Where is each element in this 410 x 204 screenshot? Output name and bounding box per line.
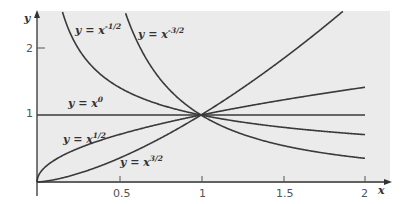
y-tick-label: 2 <box>26 42 33 55</box>
y-axis-label: y <box>23 12 32 25</box>
x-tick-label: 1 <box>199 187 206 200</box>
power-functions-chart: 0.5 1 1.5 2 1 2 x y y = x-1/2 y = x-3/2 … <box>0 0 410 204</box>
x-tick-label: 0.5 <box>113 187 131 200</box>
x-axis-label: x <box>377 184 385 197</box>
x-tick-label: 1.5 <box>276 187 294 200</box>
y-tick-label: 1 <box>26 107 33 120</box>
x-tick-label: 2 <box>361 187 368 200</box>
